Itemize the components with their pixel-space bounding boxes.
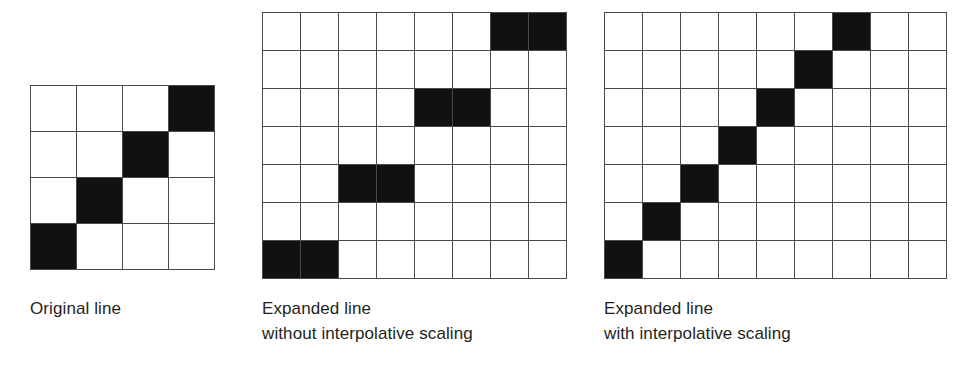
grid-cell-empty: [263, 165, 300, 202]
caption-interp-line-2: with interpolative scaling: [604, 321, 791, 346]
caption-expanded-without-interpolation: Expanded line without interpolative scal…: [262, 296, 473, 346]
grid-cell-empty: [909, 89, 946, 126]
grid-cell-empty: [833, 203, 870, 240]
grid-cell-empty: [339, 203, 376, 240]
grid-cell-empty: [757, 51, 794, 88]
grid-cell-empty: [263, 51, 300, 88]
grid-cell-filled: [77, 178, 122, 223]
grid-cell-empty: [795, 13, 832, 50]
grid-cell-empty: [339, 51, 376, 88]
grid-cell-empty: [301, 203, 338, 240]
grid-expanded-line-without-interpolative-scaling: [262, 12, 567, 279]
grid-cell-empty: [795, 203, 832, 240]
caption-nointerp-line-2: without interpolative scaling: [262, 321, 473, 346]
grid-cell-empty: [719, 13, 756, 50]
grid-cell-empty: [301, 127, 338, 164]
caption-original-line-1: Original line: [30, 296, 121, 321]
grid-cell-filled: [263, 241, 300, 278]
grid-cell-filled: [643, 203, 680, 240]
grid-cell-empty: [643, 51, 680, 88]
grid-cell-empty: [339, 13, 376, 50]
grid-cell-empty: [453, 241, 490, 278]
grid-cell-empty: [833, 89, 870, 126]
grid-cell-empty: [795, 89, 832, 126]
grid-cell-empty: [871, 127, 908, 164]
caption-interp-line-1: Expanded line: [604, 296, 791, 321]
grid-cell-empty: [871, 51, 908, 88]
grid-cell-empty: [643, 241, 680, 278]
grid-cell-empty: [719, 241, 756, 278]
figure-root: Original line Expanded line without inte…: [0, 0, 975, 377]
grid-cell-filled: [301, 241, 338, 278]
grid-cell-empty: [339, 241, 376, 278]
caption-nointerp-line-1: Expanded line: [262, 296, 473, 321]
grid-cell-empty: [301, 89, 338, 126]
grid-cell-empty: [681, 89, 718, 126]
grid-cell-empty: [263, 13, 300, 50]
grid-cell-empty: [123, 86, 168, 131]
grid-cell-empty: [757, 203, 794, 240]
grid-cell-empty: [377, 127, 414, 164]
grid-original-line: [30, 85, 215, 270]
grid-cell-empty: [453, 203, 490, 240]
grid-cell-empty: [453, 13, 490, 50]
grid-cell-empty: [169, 178, 214, 223]
grid-cell-empty: [719, 51, 756, 88]
grid-cell-empty: [339, 127, 376, 164]
grid-cell-empty: [301, 165, 338, 202]
grid-cell-empty: [377, 241, 414, 278]
grid-cell-filled: [169, 86, 214, 131]
grid-cell-empty: [719, 165, 756, 202]
grid-cell-empty: [453, 51, 490, 88]
grid-cell-empty: [757, 13, 794, 50]
grid-cell-empty: [415, 127, 452, 164]
grid-cell-empty: [529, 241, 566, 278]
grid-cell-empty: [643, 127, 680, 164]
grid-cell-empty: [415, 13, 452, 50]
grid-cell-empty: [377, 89, 414, 126]
grid-cell-filled: [123, 132, 168, 177]
grid-cell-empty: [757, 165, 794, 202]
grid-cell-filled: [529, 13, 566, 50]
grid-cell-empty: [77, 224, 122, 269]
grid-cell-empty: [491, 203, 528, 240]
grid-cell-empty: [643, 89, 680, 126]
grid-cell-empty: [909, 127, 946, 164]
grid-cell-empty: [833, 127, 870, 164]
caption-original-line: Original line: [30, 296, 121, 321]
grid-cell-filled: [339, 165, 376, 202]
grid-cell-empty: [909, 13, 946, 50]
grid-cell-empty: [833, 241, 870, 278]
grid-expanded-line-with-interpolative-scaling: [604, 12, 947, 279]
grid-cell-empty: [491, 51, 528, 88]
grid-cell-empty: [871, 13, 908, 50]
grid-cell-empty: [169, 224, 214, 269]
grid-cell-filled: [377, 165, 414, 202]
grid-cell-empty: [605, 89, 642, 126]
grid-cell-empty: [681, 127, 718, 164]
grid-cell-empty: [453, 165, 490, 202]
grid-cell-empty: [871, 89, 908, 126]
grid-cell-empty: [909, 241, 946, 278]
grid-cell-filled: [757, 89, 794, 126]
grid-cell-empty: [453, 127, 490, 164]
grid-cell-empty: [31, 86, 76, 131]
grid-cell-empty: [681, 51, 718, 88]
grid-cell-filled: [453, 89, 490, 126]
grid-cell-empty: [377, 51, 414, 88]
grid-cell-empty: [263, 127, 300, 164]
grid-cell-empty: [529, 203, 566, 240]
grid-cell-empty: [529, 127, 566, 164]
grid-cell-filled: [31, 224, 76, 269]
grid-cell-empty: [491, 165, 528, 202]
grid-cell-filled: [605, 241, 642, 278]
grid-cell-empty: [909, 165, 946, 202]
grid-cell-filled: [681, 165, 718, 202]
grid-cell-empty: [491, 89, 528, 126]
grid-cell-filled: [415, 89, 452, 126]
grid-cell-empty: [77, 132, 122, 177]
grid-cell-empty: [301, 13, 338, 50]
grid-cell-empty: [31, 132, 76, 177]
grid-cell-empty: [605, 127, 642, 164]
grid-cell-filled: [833, 13, 870, 50]
